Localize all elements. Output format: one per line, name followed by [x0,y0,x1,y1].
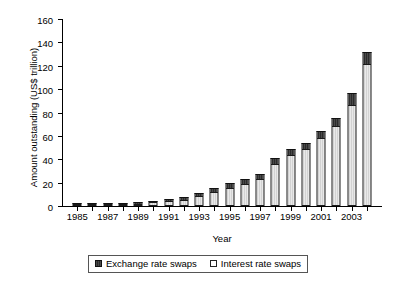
bar-segment-exchange [317,131,326,138]
table-row [332,118,341,206]
x-tick-label: 2001 [310,211,331,222]
table-row [347,93,356,206]
y-tick [58,206,63,207]
table-row [362,52,371,206]
bar-segment-interest [210,192,219,206]
bar-segment-interest [362,64,371,206]
bar-segment-interest [103,204,112,206]
bar-segment-interest [149,202,158,206]
x-tick-label: 1993 [189,211,210,222]
bar-segment-interest [271,164,280,206]
bar-segment-exchange [332,118,341,126]
legend-label-interest: Interest rate swaps [221,258,301,269]
legend-item-exchange-rate-swaps: Exchange rate swaps [95,258,197,269]
table-row [103,203,112,207]
bar-segment-interest [317,138,326,206]
x-tick [275,206,276,211]
bar-segment-interest [118,204,127,206]
x-tick [336,206,337,211]
y-tick [58,136,63,137]
table-row [271,158,280,206]
x-tick-label: 2003 [341,211,362,222]
y-tick [58,19,63,20]
bar-segment-interest [286,155,295,206]
table-row [286,149,295,206]
y-tick [58,113,63,114]
table-row [256,174,265,206]
legend-label-exchange: Exchange rate swaps [106,258,197,269]
plot-area: 020406080100120140160 198519871989199119… [62,20,382,207]
x-tick [306,206,307,211]
table-row [195,193,204,206]
table-row [134,202,143,206]
table-row [88,203,97,207]
y-tick [58,66,63,67]
bar-segment-interest [179,200,188,206]
x-tick-label: 1995 [219,211,240,222]
bar-segment-interest [164,201,173,206]
y-tick [58,183,63,184]
x-tick-label: 1985 [67,211,88,222]
y-tick-label: 60 [42,131,53,142]
bar-segment-interest [195,196,204,206]
bar-segment-exchange [362,52,371,64]
bar-segment-interest [240,184,249,206]
x-tick-label: 1999 [280,211,301,222]
x-tick-label: 1991 [158,211,179,222]
bar-segment-interest [332,126,341,206]
table-row [240,179,249,206]
x-tick [245,206,246,211]
bar-segment-exchange [347,93,356,104]
table-row [118,203,127,207]
bar-segment-interest [88,204,97,206]
table-row [164,199,173,206]
chart-legend: Exchange rate swaps Interest rate swaps [88,255,308,273]
table-row [73,203,82,207]
x-tick-label: 1989 [128,211,149,222]
bar-chart: Amount outstanding (US$ trillion) 020406… [0,0,395,287]
bar-segment-interest [134,204,143,206]
y-tick-label: 0 [48,202,53,213]
x-tick-label: 1997 [250,211,271,222]
bar-segment-interest [73,204,82,206]
bar-segment-interest [225,188,234,206]
legend-swatch-icon-interest [210,260,217,267]
y-tick [58,159,63,160]
y-tick-label: 100 [37,85,53,96]
x-tick-label: 1987 [97,211,118,222]
bar-segment-interest [256,179,265,206]
x-axis-title: Year [62,233,382,244]
x-tick [123,206,124,211]
table-row [149,201,158,206]
y-axis-line [62,20,63,207]
table-row [225,183,234,206]
table-row [301,143,310,206]
table-row [317,131,326,206]
x-tick [153,206,154,211]
bar-segment-interest [347,105,356,206]
x-axis-line [62,206,382,207]
x-tick [184,206,185,211]
bar-segment-interest [301,149,310,206]
legend-item-interest-rate-swaps: Interest rate swaps [210,258,301,269]
y-tick-label: 80 [42,108,53,119]
legend-swatch-icon-exchange [95,260,102,267]
y-tick [58,42,63,43]
table-row [179,197,188,206]
x-tick [92,206,93,211]
y-tick-label: 40 [42,155,53,166]
y-tick-label: 20 [42,178,53,189]
x-tick [367,206,368,211]
y-tick-label: 160 [37,15,53,26]
table-row [210,188,219,206]
x-tick [214,206,215,211]
y-axis-title: Amount outstanding (US$ trillion) [28,23,39,213]
y-tick-label: 140 [37,38,53,49]
y-tick-label: 120 [37,61,53,72]
y-tick [58,89,63,90]
